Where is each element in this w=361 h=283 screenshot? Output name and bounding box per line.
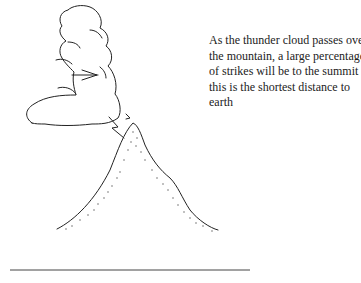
caption-line: the mountain, a large percentage bbox=[209, 49, 359, 65]
mountain-icon bbox=[57, 123, 218, 230]
caption-line: earth bbox=[209, 95, 359, 111]
thunder-cloud-icon bbox=[27, 6, 121, 126]
lightning-bolt-icon bbox=[109, 114, 130, 138]
caption-line: of strikes will be to the summit as bbox=[209, 64, 359, 80]
caption-line: As the thunder cloud passes over bbox=[209, 33, 359, 49]
diagram-caption: As the thunder cloud passes over the mou… bbox=[209, 33, 359, 111]
caption-line: this is the shortest distance to bbox=[209, 80, 359, 96]
mountain-stipple bbox=[65, 131, 212, 231]
